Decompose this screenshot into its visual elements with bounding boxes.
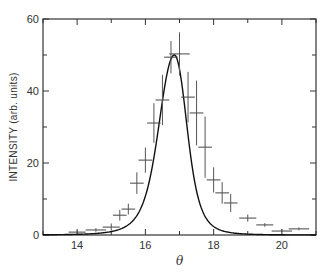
data-point — [181, 72, 195, 122]
data-point — [164, 41, 178, 73]
data-point — [198, 117, 212, 178]
y-axis-label: INTENSITY (arb. units) — [8, 72, 19, 181]
data-point — [139, 148, 153, 173]
data-point — [207, 167, 221, 192]
data-point — [256, 223, 273, 227]
x-tick-label: 16 — [139, 239, 151, 251]
data-point — [156, 75, 170, 125]
intensity-chart: 141618200204060θINTENSITY (arb. units) — [0, 0, 328, 272]
data-point — [215, 182, 229, 204]
data-point — [190, 81, 204, 146]
y-tick-label: 60 — [27, 13, 39, 25]
y-tick-label: 0 — [33, 229, 39, 241]
data-point — [113, 210, 127, 221]
x-axis-label: θ — [176, 254, 184, 268]
axis-labels: 141618200204060θINTENSITY (arb. units) — [8, 13, 288, 268]
data-point — [289, 227, 309, 230]
data-point — [121, 204, 135, 215]
data-point — [272, 230, 292, 233]
x-tick-label: 14 — [71, 239, 83, 251]
data-point — [169, 32, 189, 75]
fit-line — [43, 55, 316, 235]
y-tick-label: 20 — [27, 157, 39, 169]
y-tick-label: 40 — [27, 85, 39, 97]
data-point — [147, 103, 161, 143]
data-point — [224, 194, 238, 212]
data-point — [239, 214, 256, 221]
fit-curve — [43, 55, 316, 235]
data-point — [130, 172, 144, 194]
data-point — [69, 230, 86, 234]
x-tick-label: 20 — [276, 239, 288, 251]
data-point — [86, 228, 106, 232]
x-tick-label: 18 — [208, 239, 220, 251]
data-points — [69, 32, 310, 234]
